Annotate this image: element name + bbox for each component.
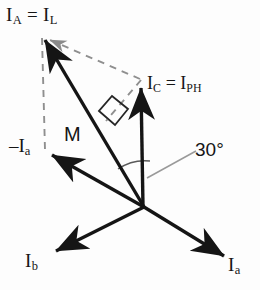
label-phase-current-equals: =: [161, 73, 180, 93]
label-angle-30: 30°: [195, 140, 224, 159]
vector-ib: [56, 207, 144, 251]
label-armature-current-subscript: A: [13, 13, 22, 27]
construction-vertical-drop: [42, 38, 45, 150]
label-line-current-symbol: I: [43, 4, 50, 25]
label-resultant-m: M: [64, 124, 81, 144]
label-negative-phase-a-symbol: I: [19, 135, 25, 156]
phasor-diagram: IA = IL IC = IPH M 30° –Ia Ib Ia: [0, 0, 260, 290]
label-phase-a: Ia: [228, 255, 240, 274]
vector-ia: [144, 207, 224, 256]
label-armature-current-symbol: I: [6, 4, 13, 25]
vector-ic-iph: [141, 88, 143, 207]
label-phase-current-subscript: C: [153, 81, 161, 95]
label-negative-phase-a-subscript: a: [25, 144, 31, 158]
label-phase-a-subscript: a: [235, 263, 241, 277]
label-phase-a-symbol: I: [228, 254, 235, 275]
vector-ia-il: [45, 40, 144, 207]
label-negative-phase-a: –Ia: [9, 136, 31, 155]
label-phase-b-subscript: b: [32, 259, 38, 273]
label-armature-current-equals: =: [22, 4, 43, 25]
angle-leader-line: [147, 151, 196, 178]
label-negative-sign: –: [9, 135, 19, 156]
label-phase-b-symbol: I: [25, 250, 32, 271]
label-line-current-subscript: L: [50, 13, 58, 27]
label-phase-current: IC = IPH: [147, 74, 202, 92]
label-ph-current-subscript: PH: [186, 81, 202, 95]
angle-arc-30-icon: [118, 161, 150, 169]
label-phase-b: Ib: [25, 251, 38, 270]
label-armature-current: IA = IL: [6, 5, 58, 24]
